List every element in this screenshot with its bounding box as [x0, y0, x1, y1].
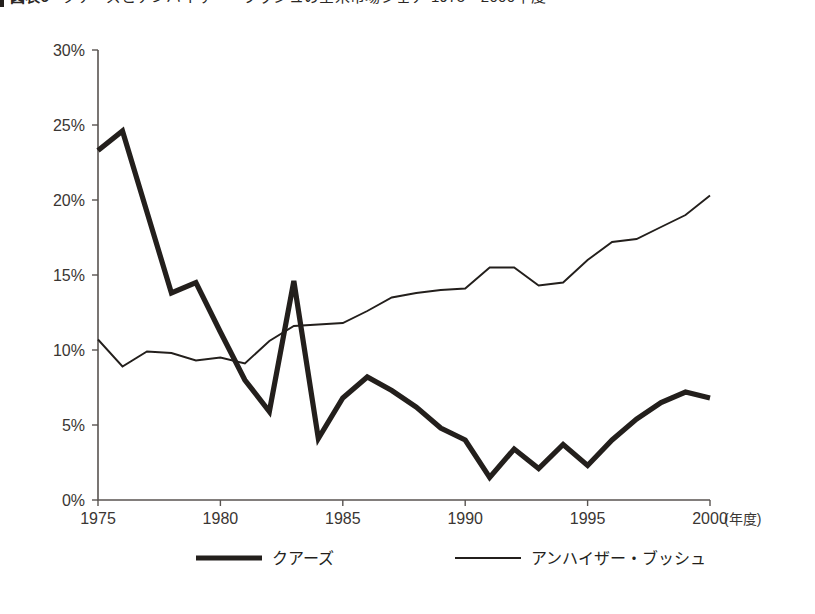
legend-label-anheuser-busch: アンハイザー・ブッシュ: [531, 549, 706, 567]
series-line-coors: [98, 131, 710, 478]
x-axis-unit-label: (年度): [724, 511, 761, 527]
legend-label-coors: クアーズ: [272, 550, 334, 567]
x-tick-label: 1980: [203, 510, 239, 527]
y-axis-tick-labels: 0%5%10%15%20%25%30%: [53, 42, 85, 509]
x-tick-label: 2000: [692, 510, 728, 527]
x-tick-label: 1995: [570, 510, 606, 527]
y-tick-label: 20%: [53, 192, 85, 209]
y-tick-label: 30%: [53, 42, 85, 59]
chart-legend: クアーズアンハイザー・ブッシュ: [196, 549, 706, 567]
y-tick-label: 0%: [62, 492, 85, 509]
y-tick-label: 15%: [53, 267, 85, 284]
series-line-anheuser-busch: [98, 196, 710, 367]
chart-series-group: [98, 131, 710, 478]
y-tick-label: 25%: [53, 117, 85, 134]
x-tick-label: 1985: [325, 510, 361, 527]
x-tick-label: 1990: [447, 510, 483, 527]
x-axis-tick-labels: 197519801985199019952000: [80, 510, 728, 527]
chart-figure: 0%5%10%15%20%25%30% 19751980198519901995…: [0, 0, 815, 614]
x-tick-label: 1975: [80, 510, 116, 527]
y-tick-label: 5%: [62, 417, 85, 434]
y-tick-label: 10%: [53, 342, 85, 359]
